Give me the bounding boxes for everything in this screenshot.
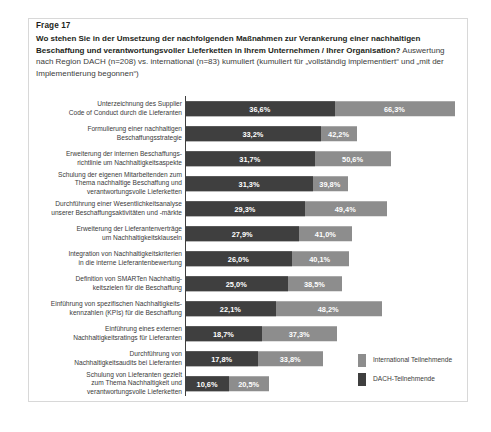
legend-item-international: International Teilnehmende — [358, 352, 483, 369]
question-number: Frage 17 — [36, 20, 74, 31]
bar-value-international: 41,0% — [315, 229, 336, 238]
category-label: Integration von Nachhaltigkeitskriterien… — [30, 250, 182, 266]
bar-value-international: 39,8% — [319, 179, 340, 188]
bar-value-dach: 26,0% — [228, 254, 249, 263]
bar-row: Erweiterung der internen Beschaffungs-ri… — [0, 146, 491, 171]
chart-legend: International Teilnehmende DACH-Teilnehm… — [358, 352, 483, 390]
bar-value-international: 49,4% — [335, 204, 356, 213]
legend-label-dach: DACH-Teilnehmende — [373, 375, 435, 382]
bar-value-international: 38,5% — [304, 279, 325, 288]
chart-page: Frage 17 Wo stehen Sie in der Umsetzung … — [0, 0, 491, 432]
question-text: Wo stehen Sie in der Umsetzung der nachf… — [36, 33, 460, 79]
category-label: Durchführung vonNachhaltigkeitsaudits be… — [30, 350, 182, 366]
question-text-bold: Wo stehen Sie in der Umsetzung der nachf… — [36, 34, 420, 55]
category-label: Durchführung einer Wesentlichkeitsanalys… — [30, 200, 182, 216]
bar-value-dach: 25,0% — [226, 279, 247, 288]
bar-value-international: 40,1% — [309, 254, 330, 263]
legend-label-international: International Teilnehmende — [373, 356, 452, 363]
bar-value-dach: 31,3% — [239, 179, 260, 188]
bar-value-dach: 36,6% — [249, 104, 270, 113]
bar-value-dach: 17,8% — [211, 354, 232, 363]
bar-row: Integration von Nachhaltigkeitskriterien… — [0, 246, 491, 271]
bar-value-international: 48,2% — [318, 304, 339, 313]
bar-row: Einführung eines externenNachhaltigkeits… — [0, 321, 491, 346]
bar-row: Definition von SMARTen Nachhaltig-keitsz… — [0, 271, 491, 296]
bar-row: Unterzeichnung des SupplierCode of Condu… — [0, 96, 491, 121]
legend-swatch-international — [358, 354, 366, 367]
bar-value-international: 66,3% — [384, 104, 405, 113]
bar-row: Schulung der eigenen Mitarbeitenden zumT… — [0, 171, 491, 196]
bar-value-dach: 18,7% — [213, 329, 234, 338]
bar-value-international: 37,3% — [289, 329, 310, 338]
category-label: Formulierung einer nachhaltigenBeschaffu… — [30, 125, 182, 141]
bar-row: Durchführung einer Wesentlichkeitsanalys… — [0, 196, 491, 221]
category-label: Schulung der eigenen Mitarbeitenden zumT… — [30, 171, 182, 196]
bar-value-international: 42,2% — [328, 129, 349, 138]
bar-value-dach: 31,7% — [239, 154, 260, 163]
bar-row: Einführung von spezifischen Nachhaltigke… — [0, 296, 491, 321]
bar-row: Erweiterung der Lieferantenverträgeum Na… — [0, 221, 491, 246]
legend-swatch-dach — [358, 373, 366, 386]
chart-plot-area: Unterzeichnung des SupplierCode of Condu… — [0, 96, 491, 396]
bar-value-international: 20,5% — [238, 379, 259, 388]
category-label: Erweiterung der internen Beschaffungs-ri… — [30, 150, 182, 166]
category-label: Unterzeichnung des SupplierCode of Condu… — [30, 100, 182, 116]
category-label: Definition von SMARTen Nachhaltig-keitsz… — [30, 275, 182, 291]
bar-value-dach: 33,2% — [242, 129, 263, 138]
category-label: Schulung von Lieferanten gezieltzum Them… — [30, 371, 182, 396]
legend-item-dach: DACH-Teilnehmende — [358, 371, 483, 388]
bar-value-dach: 22,1% — [220, 304, 241, 313]
category-label: Einführung von spezifischen Nachhaltigke… — [30, 300, 182, 316]
category-label: Erweiterung der Lieferantenverträgeum Na… — [30, 225, 182, 241]
category-label: Einführung eines externenNachhaltigkeits… — [30, 325, 182, 341]
bar-value-dach: 10,6% — [197, 379, 218, 388]
bar-value-dach: 29,3% — [234, 204, 255, 213]
bar-value-international: 50,6% — [342, 154, 363, 163]
bar-value-international: 33,8% — [280, 354, 301, 363]
bar-row: Formulierung einer nachhaltigenBeschaffu… — [0, 121, 491, 146]
bar-value-dach: 27,9% — [232, 229, 253, 238]
